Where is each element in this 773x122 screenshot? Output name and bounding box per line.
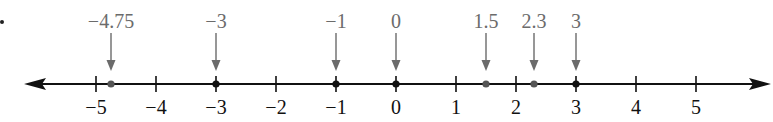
tick-label: −4 bbox=[145, 96, 166, 118]
tick-label: 3 bbox=[571, 96, 581, 118]
tick-label: 1 bbox=[451, 96, 461, 118]
pointer-arrow-icon bbox=[392, 60, 401, 71]
point-label: 2.3 bbox=[522, 10, 547, 32]
tick-label: −1 bbox=[325, 96, 346, 118]
point-label: −4.75 bbox=[88, 10, 134, 32]
tick-label: 0 bbox=[391, 96, 401, 118]
point-dot bbox=[530, 80, 537, 87]
point-dot bbox=[332, 80, 339, 87]
number-line-figure: −5−4−3−2−1012345−4.75−3−101.52.33 bbox=[0, 0, 773, 122]
list-bullet bbox=[0, 20, 4, 24]
pointer-arrow-icon bbox=[212, 60, 221, 71]
tick-label: 2 bbox=[511, 96, 521, 118]
point-dot bbox=[392, 80, 399, 87]
point-label: 1.5 bbox=[474, 10, 499, 32]
pointer-arrow-icon bbox=[332, 60, 341, 71]
tick-label: −3 bbox=[205, 96, 226, 118]
pointer-arrow-icon bbox=[482, 60, 491, 71]
point-dot bbox=[212, 80, 219, 87]
point-label: −1 bbox=[325, 10, 346, 32]
pointer-arrow-icon bbox=[530, 60, 539, 71]
point-dot bbox=[107, 80, 114, 87]
point-dot bbox=[572, 80, 579, 87]
point-label: −3 bbox=[205, 10, 226, 32]
point-dot bbox=[482, 80, 489, 87]
pointer-arrow-icon bbox=[572, 60, 581, 71]
tick-label: 4 bbox=[631, 96, 641, 118]
tick-label: −5 bbox=[85, 96, 106, 118]
tick-label: −2 bbox=[265, 96, 286, 118]
number-line: −5−4−3−2−1012345−4.75−3−101.52.33 bbox=[0, 0, 773, 122]
tick-label: 5 bbox=[691, 96, 701, 118]
pointer-arrow-icon bbox=[107, 60, 116, 71]
point-label: 0 bbox=[391, 10, 401, 32]
point-label: 3 bbox=[571, 10, 581, 32]
